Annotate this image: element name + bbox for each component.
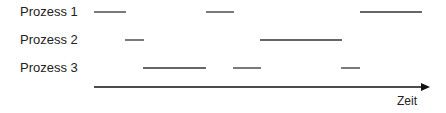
time-axis-label: Zeit bbox=[397, 94, 417, 108]
timeline-diagram bbox=[0, 0, 446, 113]
arrow-head-icon bbox=[421, 83, 430, 91]
